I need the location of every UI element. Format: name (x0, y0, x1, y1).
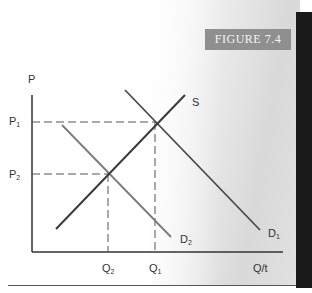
x-axis-label: Q/t (253, 262, 268, 274)
supply-demand-diagram: P Q/t P1 P2 Q2 Q1 S D1 D2 (0, 0, 312, 293)
bottom-rule (8, 285, 296, 286)
d1-label: D1 (268, 227, 280, 240)
supply-curve (56, 95, 185, 229)
d2-label: D2 (180, 233, 192, 246)
q2-label: Q2 (102, 262, 115, 275)
p2-label: P2 (9, 168, 20, 181)
q1-label: Q1 (149, 262, 162, 275)
supply-label: S (192, 96, 199, 108)
p1-label: P1 (9, 115, 20, 128)
demand-curve-d1 (125, 90, 260, 230)
y-axis-label: P (28, 73, 35, 85)
